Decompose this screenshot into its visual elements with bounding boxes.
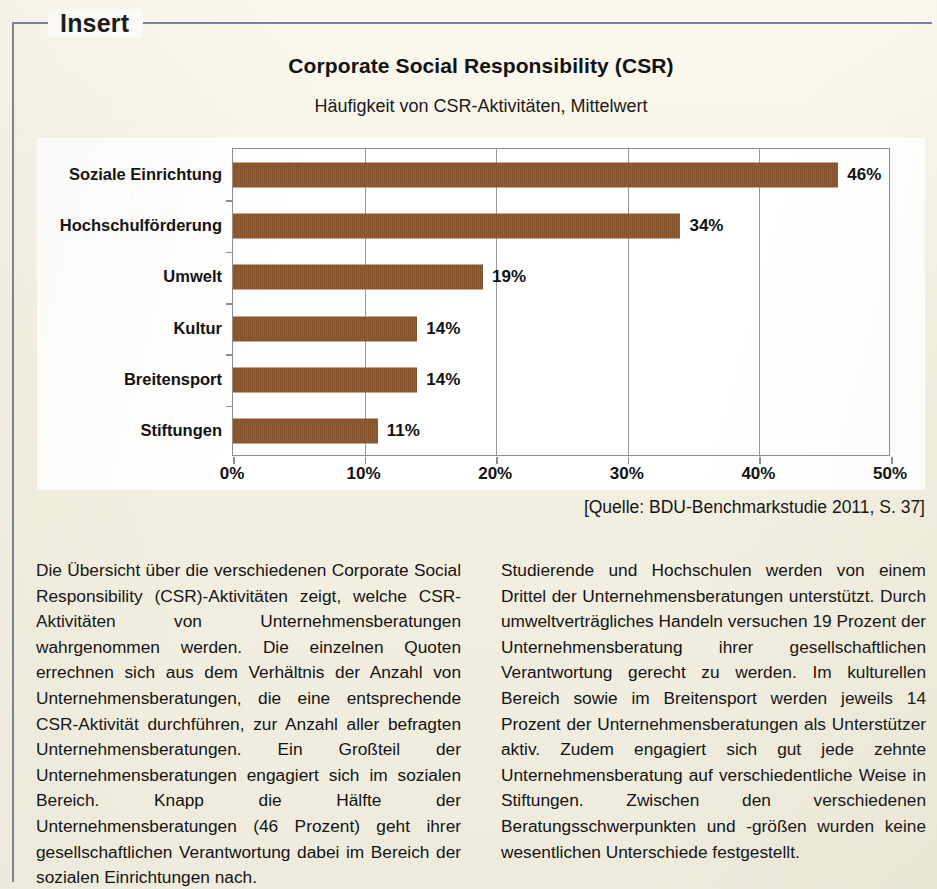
insert-legend-label: Insert bbox=[48, 9, 143, 38]
scanned-page: Insert Corporate Social Responsibility (… bbox=[0, 0, 937, 889]
x-axis-label: 30% bbox=[610, 464, 644, 484]
x-axis-label: 40% bbox=[741, 464, 775, 484]
chart-title: Corporate Social Responsibility (CSR) bbox=[37, 54, 925, 78]
y-axis-tick bbox=[226, 354, 233, 356]
bar bbox=[233, 316, 417, 341]
x-axis-label: 50% bbox=[873, 464, 907, 484]
chart-bar-row: 46% bbox=[233, 149, 889, 200]
article-body: Die Übersicht über die verschiedenen Cor… bbox=[36, 558, 926, 889]
category-row: Hochschulförderung bbox=[37, 199, 222, 250]
category-row: Soziale Einrichtung bbox=[37, 148, 222, 199]
x-axis-tick bbox=[233, 457, 235, 464]
y-axis-tick bbox=[226, 303, 233, 305]
plot-area: 46%34%19%14%14%11% bbox=[232, 148, 890, 456]
bar-value-label: 11% bbox=[387, 421, 420, 441]
x-axis-tick bbox=[891, 457, 893, 464]
category-label: Umwelt bbox=[163, 267, 222, 286]
bar bbox=[233, 419, 378, 444]
x-axis-label: 0% bbox=[220, 464, 245, 484]
x-axis-label: 20% bbox=[478, 464, 512, 484]
category-row: Stiftungen bbox=[37, 405, 222, 456]
chart-bar-row: 14% bbox=[233, 354, 889, 405]
x-axis-label: 10% bbox=[347, 464, 381, 484]
chart-bar-row: 11% bbox=[233, 406, 889, 457]
category-axis-labels: Soziale EinrichtungHochschulförderungUmw… bbox=[37, 148, 222, 456]
chart-bar-row: 14% bbox=[233, 303, 889, 354]
x-axis-tick bbox=[759, 457, 761, 464]
source-citation: [Quelle: BDU-Benchmarkstudie 2011, S. 37… bbox=[37, 497, 928, 518]
category-label: Breitensport bbox=[124, 369, 222, 388]
bar bbox=[233, 213, 680, 238]
y-axis-tick bbox=[226, 406, 233, 408]
bar bbox=[233, 162, 838, 187]
bar bbox=[233, 265, 483, 290]
x-axis-tick bbox=[365, 457, 367, 464]
x-axis-tick bbox=[628, 457, 630, 464]
y-axis-tick bbox=[226, 200, 233, 202]
x-axis-tick bbox=[496, 457, 498, 464]
category-label: Kultur bbox=[173, 318, 222, 337]
category-row: Breitensport bbox=[37, 353, 222, 404]
bar-value-label: 34% bbox=[689, 216, 723, 236]
body-column-right: Studierende und Hochschulen werden von e… bbox=[501, 558, 926, 889]
value-axis-labels: 0%10%20%30%40%50% bbox=[232, 464, 890, 490]
category-label: Hochschulförderung bbox=[60, 215, 222, 234]
category-row: Umwelt bbox=[37, 251, 222, 302]
bar-value-label: 19% bbox=[492, 267, 526, 287]
category-label: Soziale Einrichtung bbox=[69, 164, 222, 183]
bar-value-label: 14% bbox=[426, 319, 460, 339]
category-label: Stiftungen bbox=[140, 421, 222, 440]
bar bbox=[233, 367, 417, 392]
chart-plot-card: Soziale EinrichtungHochschulförderungUmw… bbox=[37, 138, 925, 490]
chart-bar-row: 34% bbox=[233, 200, 889, 251]
bar-value-label: 14% bbox=[426, 370, 460, 390]
chart-bar-row: 19% bbox=[233, 252, 889, 303]
category-row: Kultur bbox=[37, 302, 222, 353]
chart-block: Corporate Social Responsibility (CSR) Hä… bbox=[37, 40, 925, 490]
chart-subtitle: Häufigkeit von CSR-Aktivitäten, Mittelwe… bbox=[37, 96, 925, 117]
body-column-left: Die Übersicht über die verschiedenen Cor… bbox=[36, 558, 461, 889]
y-axis-tick bbox=[226, 252, 233, 254]
bar-value-label: 46% bbox=[847, 165, 881, 185]
